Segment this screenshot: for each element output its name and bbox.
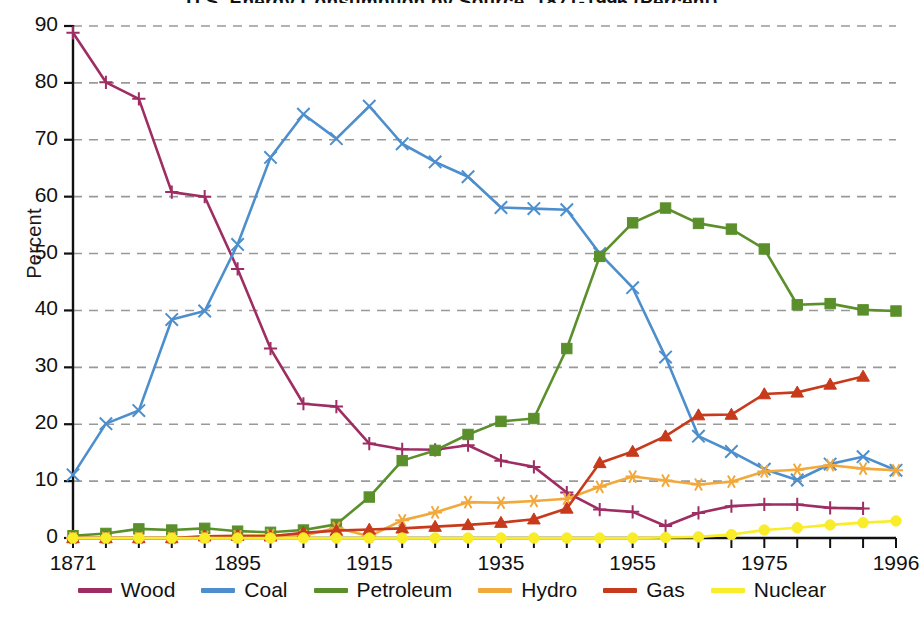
data-point-marker xyxy=(726,529,736,539)
data-point-marker xyxy=(462,171,474,183)
grid-lines xyxy=(73,26,896,481)
data-point-marker xyxy=(659,474,673,486)
data-point-marker xyxy=(527,495,541,507)
data-point-marker xyxy=(298,533,308,543)
data-point-marker xyxy=(659,351,671,363)
data-point-marker xyxy=(68,533,78,543)
data-point-marker xyxy=(824,501,837,514)
data-point-marker xyxy=(627,218,637,228)
data-point-marker xyxy=(791,498,804,511)
legend-item-petroleum[interactable]: Petroleum xyxy=(314,578,453,602)
series-line xyxy=(73,465,896,538)
legend-item-wood[interactable]: Wood xyxy=(78,578,175,602)
data-point-marker xyxy=(397,533,407,543)
data-point-marker xyxy=(660,532,670,542)
data-point-marker xyxy=(593,481,607,493)
data-point-marker xyxy=(134,533,144,543)
series-wood xyxy=(66,26,869,532)
data-point-marker xyxy=(562,533,572,543)
data-point-marker xyxy=(198,190,211,203)
data-point-marker xyxy=(199,533,209,543)
data-point-marker xyxy=(396,443,409,456)
data-point-marker xyxy=(825,520,835,530)
data-point-marker xyxy=(101,533,111,543)
data-point-marker xyxy=(792,300,802,310)
data-point-marker xyxy=(496,533,506,543)
data-point-marker xyxy=(463,429,473,439)
data-point-marker xyxy=(364,533,374,543)
data-point-marker xyxy=(529,413,539,423)
data-point-marker xyxy=(858,305,868,315)
data-point-marker xyxy=(430,445,440,455)
data-point-marker xyxy=(331,533,341,543)
data-point-marker xyxy=(428,506,442,518)
data-point-marker xyxy=(856,463,870,475)
data-point-marker xyxy=(693,532,703,542)
axes xyxy=(64,25,896,548)
legend-item-gas[interactable]: Gas xyxy=(603,578,685,602)
data-point-marker xyxy=(265,533,275,543)
data-point-marker xyxy=(791,474,803,486)
data-point-marker xyxy=(725,500,738,513)
series-gas xyxy=(67,370,870,543)
data-point-marker xyxy=(593,503,606,516)
data-point-marker xyxy=(496,416,506,426)
data-point-marker xyxy=(724,476,738,488)
legend-item-hydro[interactable]: Hydro xyxy=(478,578,577,602)
data-point-marker xyxy=(430,533,440,543)
data-point-marker xyxy=(264,151,276,163)
data-point-marker xyxy=(231,238,243,250)
data-point-marker xyxy=(494,454,507,467)
data-point-marker xyxy=(626,281,638,293)
data-point-marker xyxy=(463,533,473,543)
legend-swatch-icon xyxy=(201,588,235,593)
data-point-marker xyxy=(725,445,737,457)
chart-legend: WoodCoalPetroleumHydroGasNuclear xyxy=(0,578,904,602)
data-point-marker xyxy=(693,218,703,228)
legend-swatch-icon xyxy=(711,588,745,593)
data-point-marker xyxy=(595,251,605,261)
data-point-marker xyxy=(396,138,408,150)
legend-swatch-icon xyxy=(78,588,112,593)
data-point-marker xyxy=(494,497,508,509)
data-point-marker xyxy=(856,502,869,515)
data-point-marker xyxy=(627,533,637,543)
legend-item-coal[interactable]: Coal xyxy=(201,578,287,602)
data-point-marker xyxy=(132,92,145,105)
data-point-marker xyxy=(857,370,870,381)
data-point-marker xyxy=(297,397,310,410)
data-point-marker xyxy=(692,430,704,442)
data-point-marker xyxy=(891,306,901,316)
legend-item-nuclear[interactable]: Nuclear xyxy=(711,578,826,602)
data-point-marker xyxy=(133,404,145,416)
data-point-marker xyxy=(792,523,802,533)
data-point-marker xyxy=(726,224,736,234)
legend-label: Hydro xyxy=(521,578,577,602)
series-line xyxy=(73,208,896,536)
data-point-marker xyxy=(363,100,375,112)
data-point-marker xyxy=(231,262,244,275)
legend-swatch-icon xyxy=(603,588,637,593)
data-point-marker xyxy=(659,430,672,441)
legend-label: Wood xyxy=(121,578,175,602)
data-point-marker xyxy=(429,156,441,168)
data-point-marker xyxy=(397,455,407,465)
data-point-marker xyxy=(692,506,705,519)
data-point-marker xyxy=(529,533,539,543)
legend-label: Petroleum xyxy=(357,578,453,602)
data-point-marker xyxy=(858,517,868,527)
data-point-marker xyxy=(758,498,771,511)
data-point-marker xyxy=(330,132,342,144)
data-point-marker xyxy=(232,533,242,543)
data-point-marker xyxy=(626,505,639,518)
data-point-marker xyxy=(364,492,374,502)
data-point-marker xyxy=(264,342,277,355)
data-point-marker xyxy=(461,439,474,452)
data-point-marker xyxy=(691,478,705,490)
data-point-marker xyxy=(891,516,901,526)
data-point-marker xyxy=(825,298,835,308)
legend-swatch-icon xyxy=(478,588,512,593)
legend-label: Nuclear xyxy=(754,578,826,602)
